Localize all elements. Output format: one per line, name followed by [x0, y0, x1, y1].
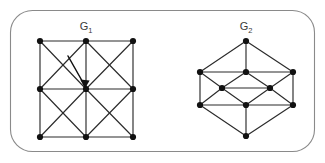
graph-vertex — [83, 134, 89, 140]
graph-figure: G1 G2 — [0, 0, 325, 163]
graph-edge — [246, 72, 270, 88]
graph-vertex — [37, 86, 43, 92]
graph-vertex — [130, 134, 136, 140]
graph-vertex — [83, 86, 89, 92]
graph-edge — [246, 41, 293, 72]
figure-frame — [11, 11, 315, 152]
graph-edge — [246, 105, 293, 136]
graph-vertex — [197, 102, 203, 108]
graph-g2-label: G2 — [240, 20, 253, 35]
graph-vertex — [243, 69, 249, 75]
graph-g2-edges — [200, 41, 293, 136]
graph-g1-label: G1 — [80, 20, 93, 35]
graph-vertex — [130, 86, 136, 92]
graph-g2-label-sub: 2 — [248, 26, 252, 35]
graph-vertex — [267, 85, 273, 91]
graph-edge — [270, 88, 293, 105]
graph-vertex — [37, 38, 43, 44]
graph-vertex — [290, 69, 296, 75]
graph-edge — [200, 72, 222, 88]
graph-edge — [270, 72, 293, 88]
graph-edge — [222, 72, 246, 88]
graph-vertex — [37, 134, 43, 140]
graph-g1-label-sub: 1 — [88, 26, 92, 35]
graph-vertex — [243, 38, 249, 44]
graph-vertex — [83, 38, 89, 44]
graph-vertex — [197, 69, 203, 75]
graph-edge — [200, 88, 222, 105]
graph-edge — [200, 105, 246, 136]
graph-g1-label-main: G — [80, 20, 89, 32]
graph-edge — [246, 88, 270, 105]
graph-edge — [222, 88, 246, 105]
graph-g1: G1 — [37, 20, 136, 140]
figure-canvas: G1 G2 — [0, 0, 325, 163]
graph-vertex — [219, 85, 225, 91]
graph-vertex — [243, 102, 249, 108]
graph-vertex — [243, 133, 249, 139]
graph-g2-label-main: G — [240, 20, 249, 32]
graph-vertex — [130, 38, 136, 44]
graph-vertex — [290, 102, 296, 108]
graph-edge — [200, 41, 246, 72]
graph-g2: G2 — [197, 20, 296, 139]
